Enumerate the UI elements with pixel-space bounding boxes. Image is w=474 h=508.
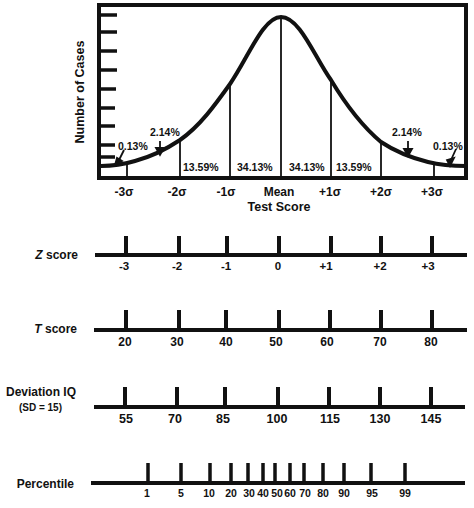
pct-tail-right: 0.13% (433, 140, 463, 152)
z-tick-label: +1 (319, 260, 333, 272)
pct-arrow-right: 2.14% (392, 126, 422, 138)
percentile-ticks (148, 463, 405, 483)
iq-tick-label: 145 (421, 412, 442, 426)
iq-tick-label: 70 (168, 412, 182, 426)
iq-tick-label: 115 (320, 412, 340, 426)
iq-tick-label: 130 (370, 412, 391, 426)
deviation-iq-note: (SD = 15) (19, 402, 62, 413)
z-tick-label: +3 (421, 260, 434, 272)
percentile-tick-label: 40 (257, 487, 269, 499)
percentile-tick-label: 70 (299, 487, 311, 499)
z-tick-label: -3 (119, 260, 129, 272)
t-tick-label: 70 (373, 335, 387, 349)
z-tick-label: 0 (275, 260, 281, 272)
bell-curve-chart: 0.13% 2.14% 13.59% 34.13% 34.13% 13.59% … (73, 5, 466, 214)
deviation-iq-scale: Deviation IQ (SD = 15) 55 70 85 100 115 … (6, 385, 465, 426)
deviation-iq-label: Deviation IQ (6, 385, 76, 399)
sigma-label: Mean (264, 185, 295, 199)
iq-ticks (125, 387, 431, 407)
percentile-tick-label: 5 (178, 487, 184, 499)
t-tick-label: 60 (320, 335, 334, 349)
z-tick-label: -2 (172, 260, 182, 272)
sigma-label: +2σ (370, 185, 392, 199)
percentile-tick-label: 10 (203, 487, 215, 499)
z-ticks (126, 236, 432, 255)
t-score-label: T score (34, 322, 77, 336)
x-axis-title: Test Score (248, 200, 311, 214)
normal-curve-figure: 0.13% 2.14% 13.59% 34.13% 34.13% 13.59% … (0, 0, 474, 508)
percentile-scale: Percentile 1 5 10 20 30 40 50 60 70 80 9… (17, 463, 465, 499)
z-tick-label: -1 (221, 260, 232, 272)
percentile-tick-label: 95 (366, 487, 378, 499)
percentile-tick-label: 1 (144, 487, 150, 499)
z-score-scale: Z score -3 -2 -1 0 +1 +2 +3 (34, 236, 467, 272)
normal-curve (101, 17, 466, 166)
sigma-label: -3σ (115, 185, 134, 199)
pct-band-p1: 34.13% (289, 161, 325, 173)
pct-band-m2: 13.59% (183, 161, 219, 173)
sigma-label: +1σ (319, 185, 341, 199)
sigma-dividers (127, 17, 434, 177)
iq-tick-label: 100 (267, 412, 288, 426)
percentile-tick-label: 50 (271, 487, 283, 499)
t-tick-label: 50 (269, 335, 283, 349)
figure-canvas: 0.13% 2.14% 13.59% 34.13% 34.13% 13.59% … (0, 0, 474, 508)
sigma-label: -2σ (168, 185, 187, 199)
z-score-label: Z score (34, 248, 78, 262)
t-ticks (126, 310, 432, 330)
iq-tick-label: 85 (216, 412, 230, 426)
percentile-label: Percentile (17, 477, 75, 491)
percentile-tick-label: 80 (317, 487, 329, 499)
percentile-tick-label: 99 (399, 487, 411, 499)
t-tick-label: 20 (118, 335, 132, 349)
sigma-labels: -3σ -2σ -1σ Mean +1σ +2σ +3σ (115, 185, 443, 199)
t-tick-label: 80 (424, 335, 438, 349)
percentile-tick-label: 30 (243, 487, 255, 499)
pct-band-m1: 34.13% (237, 161, 273, 173)
pct-tail-left: 0.13% (118, 140, 148, 152)
sigma-label: -1σ (217, 185, 236, 199)
z-tick-label: +2 (373, 260, 386, 272)
sigma-label: +3σ (421, 185, 443, 199)
y-axis-ticks (101, 15, 117, 157)
t-score-scale: T score 20 30 40 50 60 70 80 (34, 310, 467, 349)
pct-arrow-left: 2.14% (150, 126, 180, 138)
t-tick-label: 30 (170, 335, 184, 349)
t-tick-label: 40 (219, 335, 233, 349)
pct-band-p2: 13.59% (336, 161, 372, 173)
iq-tick-label: 55 (119, 412, 133, 426)
percentile-tick-label: 90 (338, 487, 350, 499)
percentile-tick-label: 20 (225, 487, 237, 499)
y-axis-label: Number of Cases (73, 41, 87, 144)
percentile-tick-label: 60 (284, 487, 296, 499)
